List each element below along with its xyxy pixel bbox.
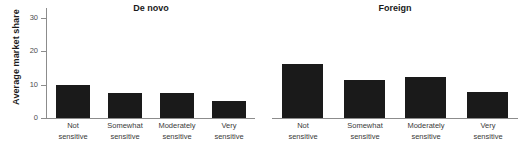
x-tick-label-line1: Not [47, 121, 99, 132]
x-tick-label: Notsensitive [47, 121, 99, 142]
x-tick-label-line2: sensitive [203, 132, 255, 143]
x-tick-label-line1: Very [457, 121, 519, 132]
x-axis-labels-de-novo: NotsensitiveSomewhatsensitiveModeratelys… [47, 121, 255, 151]
x-tick-label: Moderatelysensitive [395, 121, 457, 142]
panel-foreign: Foreign NotsensitiveSomewhatsensitiveMod… [272, 0, 518, 154]
bar [212, 101, 246, 118]
y-tick-label-20: 20 [22, 47, 38, 55]
x-axis-labels-foreign: NotsensitiveSomewhatsensitiveModeratelys… [272, 121, 518, 151]
bar [56, 85, 90, 118]
plot-area-foreign [272, 8, 518, 118]
x-tick-label: Moderatelysensitive [151, 121, 203, 142]
panel-de-novo: De novo NotsensitiveSomewhatsensitiveMod… [47, 0, 255, 154]
x-tick-label-line2: sensitive [272, 132, 334, 143]
x-tick-label: Verysensitive [203, 121, 255, 142]
x-tick-label-line2: sensitive [395, 132, 457, 143]
bar [344, 80, 385, 118]
x-tick-label-line1: Very [203, 121, 255, 132]
x-tick-label-line2: sensitive [47, 132, 99, 143]
x-tick-label-line2: sensitive [99, 132, 151, 143]
x-axis-line-de-novo [47, 118, 255, 119]
x-tick-label: Somewhatsensitive [99, 121, 151, 142]
y-tick-label-10: 10 [22, 81, 38, 89]
bar [467, 92, 508, 118]
bar [160, 93, 194, 118]
x-tick-label-line2: sensitive [334, 132, 396, 143]
x-tick-label-line1: Not [272, 121, 334, 132]
x-tick-label-line2: sensitive [457, 132, 519, 143]
figure: Average market share 0102030 De novo Not… [0, 0, 526, 154]
bar [405, 77, 446, 118]
x-tick-label-line1: Somewhat [334, 121, 396, 132]
y-tick-label-30: 30 [22, 14, 38, 22]
x-tick-label-line1: Moderately [151, 121, 203, 132]
x-tick-label: Notsensitive [272, 121, 334, 142]
x-tick-label-line1: Moderately [395, 121, 457, 132]
x-tick-label-line1: Somewhat [99, 121, 151, 132]
x-tick-label: Somewhatsensitive [334, 121, 396, 142]
plot-area-de-novo [47, 8, 255, 118]
x-tick-label-line2: sensitive [151, 132, 203, 143]
y-axis-title: Average market share [11, 0, 21, 117]
x-axis-line-foreign [272, 118, 518, 119]
y-tick-label-0: 0 [22, 114, 38, 122]
bar [282, 64, 323, 118]
bar [108, 93, 142, 118]
x-tick-label: Verysensitive [457, 121, 519, 142]
